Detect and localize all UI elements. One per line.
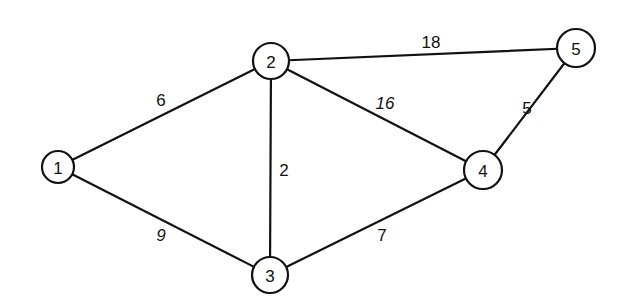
node-1: 1 xyxy=(42,151,74,183)
node-label: 3 xyxy=(265,267,274,286)
node-2: 2 xyxy=(253,43,289,79)
node-label: 4 xyxy=(478,162,487,181)
node-3: 3 xyxy=(252,257,288,293)
edge-weight-3-4: 7 xyxy=(377,226,386,245)
node-label: 5 xyxy=(571,40,580,59)
edge-weight-1-3: 9 xyxy=(156,226,166,245)
node-label: 2 xyxy=(266,53,275,72)
nodes-group: 12345 xyxy=(42,29,595,293)
node-label: 1 xyxy=(53,159,62,178)
edge-weight-1-2: 6 xyxy=(156,91,165,110)
edge-1-2 xyxy=(58,61,271,167)
edge-2-4 xyxy=(271,61,483,170)
edge-1-3 xyxy=(58,167,270,275)
edge-weight-2-4: 16 xyxy=(376,94,395,113)
edge-weight-2-5: 18 xyxy=(422,33,441,52)
node-5: 5 xyxy=(557,29,595,67)
edge-weight-2-3: 2 xyxy=(279,161,288,180)
edge-weight-4-5: 5 xyxy=(522,99,531,118)
edge-2-3 xyxy=(270,61,271,275)
edge-labels-group: 692161875 xyxy=(156,33,531,245)
edge-3-4 xyxy=(270,170,483,275)
node-4: 4 xyxy=(464,151,502,189)
graph-diagram: 692161875 12345 xyxy=(0,0,626,305)
